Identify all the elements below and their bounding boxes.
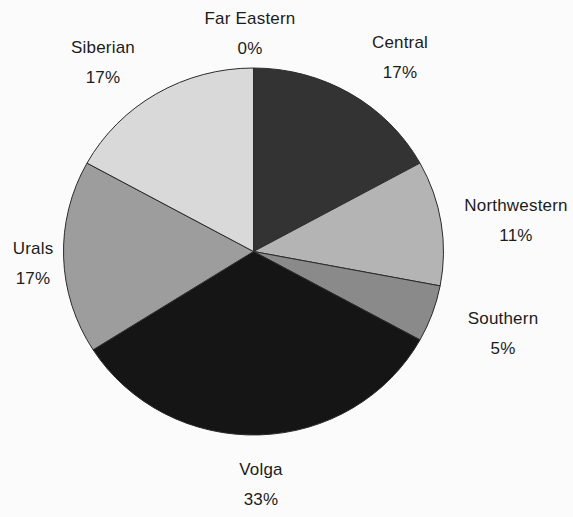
slice-label-central-name: Central	[372, 28, 428, 58]
slice-label-volga: Volga 33%	[239, 455, 283, 515]
slice-label-far-eastern: Far Eastern 0%	[204, 4, 295, 64]
pie-chart-figure: Central 17% Northwestern 11% Southern 5%…	[0, 0, 573, 517]
slice-label-northwestern-name: Northwestern	[464, 191, 568, 221]
slice-label-southern: Southern 5%	[468, 304, 539, 364]
slice-label-northwestern: Northwestern 11%	[464, 191, 568, 251]
slice-label-central: Central 17%	[372, 28, 428, 88]
slice-label-volga-name: Volga	[239, 455, 283, 485]
slice-label-urals-value: 17%	[13, 264, 54, 294]
slice-label-far-eastern-value: 0%	[204, 34, 295, 64]
slice-label-southern-name: Southern	[468, 304, 539, 334]
slice-label-volga-value: 33%	[239, 485, 283, 515]
slice-label-siberian-value: 17%	[71, 63, 135, 93]
slice-label-siberian: Siberian 17%	[71, 33, 135, 93]
slice-label-siberian-name: Siberian	[71, 33, 135, 63]
slice-label-urals: Urals 17%	[13, 234, 54, 294]
slice-label-northwestern-value: 11%	[464, 221, 568, 251]
slice-label-urals-name: Urals	[13, 234, 54, 264]
slice-label-far-eastern-name: Far Eastern	[204, 4, 295, 34]
slice-label-central-value: 17%	[372, 58, 428, 88]
slice-label-southern-value: 5%	[468, 334, 539, 364]
